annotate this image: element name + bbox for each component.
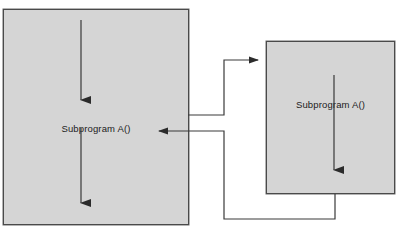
process-box-left-label: Subprogram A() bbox=[4, 124, 188, 134]
connector-call-left-to-right bbox=[188, 60, 258, 115]
diagram-canvas: Subprogram A() Subprogram A() bbox=[0, 0, 404, 228]
process-box-right-label: Subprogram A() bbox=[267, 100, 394, 110]
process-box-right: Subprogram A() bbox=[266, 41, 395, 194]
process-box-left: Subprogram A() bbox=[3, 9, 189, 225]
